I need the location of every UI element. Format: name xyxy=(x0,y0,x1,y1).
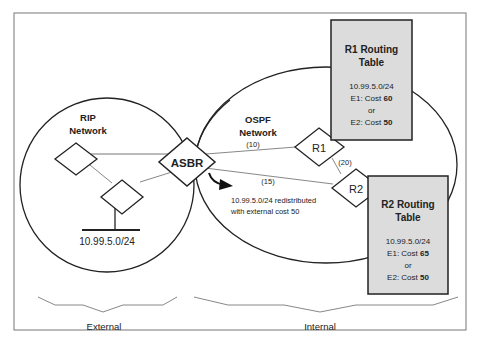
cost-r1-r2: (20) xyxy=(338,158,352,167)
external-region-label: External xyxy=(87,321,122,332)
internal-region-label: Internal xyxy=(304,321,336,332)
r2-table-title: R2 Routing xyxy=(381,199,434,210)
r2-table-e1-row: E1: Cost 65 xyxy=(387,249,429,258)
r1-table-title-line2: Table xyxy=(359,57,385,68)
r2-label: R2 xyxy=(349,183,363,195)
r1-routing-table: R1 Routing Table 10.99.5.0/24 E1: Cost 6… xyxy=(331,20,412,140)
network-diagram: ASBR R1 R2 RIP Network OSPF Network 10.9… xyxy=(0,0,479,348)
cost-asbr-r2: (15) xyxy=(261,177,275,186)
r1-e1-cost: 60 xyxy=(384,94,393,103)
rip-network-title: RIP xyxy=(80,112,97,123)
r2-e2-cost: 50 xyxy=(420,273,429,282)
subnet-label: 10.99.5.0/24 xyxy=(79,236,135,247)
ospf-network-subtitle: Network xyxy=(239,127,277,138)
r2-table-e2-row: E2: Cost 50 xyxy=(387,273,429,282)
r2-table-prefix: 10.99.5.0/24 xyxy=(386,237,431,246)
r1-table-or: or xyxy=(368,106,375,115)
r1-label: R1 xyxy=(312,142,326,154)
r2-table-or: or xyxy=(404,261,411,270)
cost-asbr-r1: (10) xyxy=(246,140,260,149)
redistribution-note-line1: 10.99.5.0/24 redistributed xyxy=(231,196,316,205)
r2-routing-table: R2 Routing Table 10.99.5.0/24 E1: Cost 6… xyxy=(368,176,448,294)
r1-table-prefix: 10.99.5.0/24 xyxy=(349,82,394,91)
r1-table-e2-row: E2: Cost 50 xyxy=(351,118,393,127)
r1-table-title: R1 Routing xyxy=(345,44,398,55)
r1-e2-cost: 50 xyxy=(384,118,393,127)
r2-e1-cost: 65 xyxy=(420,249,429,258)
rip-network-subtitle: Network xyxy=(69,125,107,136)
ospf-network-title: OSPF xyxy=(245,114,271,125)
r2-table-title-line2: Table xyxy=(395,212,421,223)
r1-table-e1-row: E1: Cost 60 xyxy=(351,94,393,103)
redistribution-note-line2: with external cost 50 xyxy=(230,207,299,216)
asbr-label: ASBR xyxy=(171,157,204,169)
